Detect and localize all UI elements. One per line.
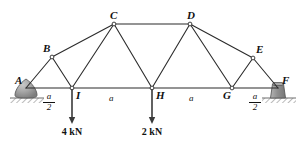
ground-hatch-right [262,98,296,103]
node-label-A: A [15,75,22,86]
support-F [262,83,296,104]
node-label-G: G [223,90,231,101]
dim-G-F-denominator: 2 [249,103,261,112]
dim-I-H: a [109,93,114,103]
node-label-B: B [43,43,50,54]
dim-H-G: a [189,93,194,103]
truss-member-CH [114,24,152,88]
ground-hatch-left [10,98,44,103]
load-arrowhead-H [149,117,155,124]
truss-joint-D [188,22,192,26]
truss-member-BI [52,57,72,88]
load-label-I: 4 kN [56,127,88,137]
node-label-D: D [187,10,195,21]
truss-members [26,24,278,88]
node-label-E: E [256,44,263,55]
node-label-I: I [76,90,80,101]
truss-member-DE [190,24,253,58]
truss-member-AB [26,57,52,88]
truss-joint-E [251,56,255,60]
truss-member-BC [52,24,114,57]
dim-A-I: a2 [43,92,55,112]
node-label-F: F [282,75,289,86]
truss-diagram: AIHGFBCDE a2aaa2 4 kN2 kN [0,0,302,148]
truss-joint-B [50,55,54,59]
node-label-C: C [110,10,117,21]
truss-member-EG [232,58,253,88]
truss-member-DG [190,24,232,88]
dim-G-F: a2 [249,92,261,112]
load-label-H: 2 kN [136,127,168,137]
node-label-H: H [156,90,165,101]
truss-member-CI [72,24,114,88]
truss-joint-C [112,22,116,26]
truss-member-EF [253,58,278,88]
roller-support-body [271,84,286,98]
truss-member-DH [152,24,190,88]
dim-A-I-numerator: a [43,92,55,101]
dim-A-I-denominator: 2 [43,103,55,112]
dim-G-F-numerator: a [249,92,261,101]
truss-joints [50,22,255,90]
load-arrowhead-I [69,117,75,124]
